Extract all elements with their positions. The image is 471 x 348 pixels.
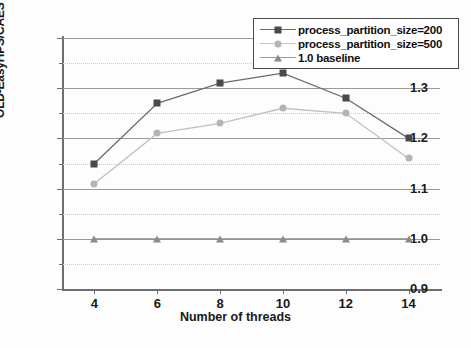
legend-swatch-circle-icon <box>258 38 298 50</box>
legend-item-label: process_partition_size=500 <box>298 38 442 50</box>
x-tick <box>409 289 410 294</box>
data-point-marker <box>154 130 161 137</box>
series-line <box>94 108 408 183</box>
legend-item[interactable]: process_partition_size=500 <box>258 37 454 50</box>
data-point-marker <box>90 235 98 242</box>
data-point-marker <box>342 95 349 102</box>
data-point-marker <box>405 135 412 142</box>
legend-item[interactable]: process_partition_size=200 <box>258 23 454 36</box>
data-point-marker <box>217 120 224 127</box>
x-tick <box>157 289 158 294</box>
x-tick <box>283 289 284 294</box>
x-tick-label: 6 <box>154 296 161 311</box>
data-point-marker <box>279 105 286 112</box>
x-tick <box>94 289 95 294</box>
legend-item-label: 1.0 baseline <box>298 52 360 64</box>
data-point-marker <box>342 110 349 117</box>
data-point-marker <box>216 235 224 242</box>
legend: process_partition_size=200 process_parti… <box>253 18 459 69</box>
chart-figure: OLD-EasyHPS/CAEST Number of threads 0.91… <box>0 0 471 348</box>
data-point-marker <box>279 70 286 77</box>
x-tick <box>346 289 347 294</box>
data-point-marker <box>153 235 161 242</box>
legend-item-label: process_partition_size=200 <box>298 24 442 36</box>
x-axis-line <box>62 289 442 291</box>
x-tick-label: 4 <box>91 296 98 311</box>
y-tick <box>57 289 63 290</box>
x-tick-label: 10 <box>276 296 290 311</box>
plot-area: 0.91.01.11.21.31.4 468101214 <box>63 38 440 289</box>
data-point-marker <box>279 235 287 242</box>
data-point-marker <box>217 80 224 87</box>
x-tick-label: 14 <box>401 296 415 311</box>
x-tick <box>220 289 221 294</box>
data-point-marker <box>405 235 413 242</box>
x-tick-label: 12 <box>339 296 353 311</box>
x-axis-title: Number of threads <box>0 310 471 324</box>
series-lines <box>63 38 440 289</box>
legend-swatch-square-icon <box>258 24 298 36</box>
data-point-marker <box>91 160 98 167</box>
data-point-marker <box>91 180 98 187</box>
data-point-marker <box>342 235 350 242</box>
legend-swatch-triangle-icon <box>258 52 298 64</box>
legend-item[interactable]: 1.0 baseline <box>258 51 454 64</box>
series-line <box>94 73 408 163</box>
x-tick-label: 8 <box>216 296 223 311</box>
y-axis-title: OLD-EasyHPS/CAEST <box>0 0 7 118</box>
data-point-marker <box>405 155 412 162</box>
data-point-marker <box>154 100 161 107</box>
